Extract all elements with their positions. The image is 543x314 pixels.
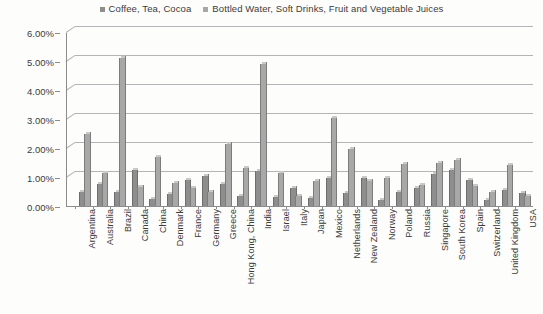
bar-top xyxy=(473,184,478,186)
y-axis-tick-label: 4.00% xyxy=(27,86,54,97)
bar-group xyxy=(216,27,234,206)
x-axis-tick-label: Spain xyxy=(475,209,485,233)
y-axis-tick xyxy=(55,62,60,63)
bar xyxy=(507,165,512,206)
x-axis-tick-label: Norway xyxy=(387,209,397,240)
x-axis-labels: ArgentinaAustraliaBrazilCanadaChinaDenma… xyxy=(66,209,533,313)
x-axis-tick-label: Japan xyxy=(316,209,326,234)
bar-group xyxy=(392,27,410,206)
bar xyxy=(255,171,260,206)
y-axis-tick xyxy=(55,33,60,34)
bar-face xyxy=(313,181,320,206)
bar-group xyxy=(374,27,392,206)
bar-group xyxy=(163,27,181,206)
bar-group xyxy=(269,27,287,206)
bar-face xyxy=(190,188,197,206)
bar-face xyxy=(419,185,426,206)
bar-top xyxy=(508,163,513,165)
bar-group xyxy=(304,27,322,206)
y-axis-tick-label: 5.00% xyxy=(27,57,54,68)
bar-group xyxy=(463,27,481,206)
bar-group xyxy=(339,27,357,206)
bar xyxy=(331,118,336,206)
bar-top xyxy=(209,190,214,192)
bar xyxy=(396,192,401,207)
bar-face xyxy=(489,192,496,207)
y-axis-tick xyxy=(55,120,60,121)
bar-face xyxy=(207,192,214,207)
bar xyxy=(361,178,366,206)
y-axis-tick-label: 1.00% xyxy=(27,173,54,184)
bar-face xyxy=(225,144,232,206)
bar-face xyxy=(436,163,443,207)
y-axis-tick-label: 0.00% xyxy=(27,202,54,213)
bar xyxy=(79,192,84,207)
bar-group xyxy=(480,27,498,206)
bar xyxy=(454,160,459,206)
bar xyxy=(366,181,371,206)
bar-top xyxy=(438,161,443,163)
x-axis-tick-label: Israel xyxy=(281,209,291,232)
x-axis-tick-label: Canada xyxy=(140,209,150,241)
bar-group xyxy=(357,27,375,206)
y-axis-tick xyxy=(55,91,60,92)
bar-face xyxy=(119,58,126,206)
x-axis-tick-label: China xyxy=(158,209,168,233)
bar-face xyxy=(507,165,514,206)
bar xyxy=(449,170,454,206)
legend-label-series-1: Coffee, Tea, Cocoa xyxy=(109,3,192,14)
legend-item-bottled-water-soft-drinks: Bottled Water, Soft Drinks, Fruit and Ve… xyxy=(203,3,443,14)
bar-group xyxy=(286,27,304,206)
bar-chart: Coffee, Tea, Cocoa Bottled Water, Soft D… xyxy=(0,0,543,314)
x-axis-tick-label: Australia xyxy=(105,209,115,245)
bar xyxy=(243,168,248,206)
bar-top xyxy=(315,179,320,181)
bar xyxy=(384,178,389,206)
y-axis-tick-label: 2.00% xyxy=(27,144,54,155)
bar-top xyxy=(133,168,138,170)
x-axis-tick-label: India xyxy=(263,209,273,229)
bar xyxy=(431,174,436,206)
legend-item-coffee-tea-cocoa: Coffee, Tea, Cocoa xyxy=(100,3,192,14)
bar-top xyxy=(468,178,473,180)
bar-top xyxy=(491,190,496,192)
x-axis-tick-label: Russia xyxy=(422,209,432,237)
bar xyxy=(149,199,154,206)
bar xyxy=(436,163,441,207)
bar-face xyxy=(260,64,267,206)
bar-top xyxy=(297,194,302,196)
x-axis-tick-label: Argentina xyxy=(87,209,97,248)
bar-top xyxy=(86,132,91,134)
y-axis: 0.00%1.00%2.00%3.00%4.00%5.00%6.00% xyxy=(0,27,60,213)
bar-face xyxy=(331,118,338,206)
x-axis-tick-label: Germany xyxy=(211,209,221,247)
bar xyxy=(190,188,195,206)
bar-top xyxy=(191,186,196,188)
bar xyxy=(472,186,477,206)
y-axis-tick-label: 3.00% xyxy=(27,115,54,126)
x-axis-tick-label: Hong Kong, China xyxy=(246,209,256,284)
bar xyxy=(119,58,124,206)
bar xyxy=(489,192,494,207)
bar xyxy=(185,180,190,206)
bar-top xyxy=(350,147,355,149)
bar-top xyxy=(138,185,143,187)
bar xyxy=(137,187,142,206)
bar-face xyxy=(366,181,373,206)
y-axis-tick xyxy=(55,149,60,150)
gridline-riser xyxy=(66,171,76,178)
x-axis-tick-label: USA xyxy=(528,209,538,228)
bar-top xyxy=(403,162,408,164)
bar-face xyxy=(384,178,391,206)
bar-face xyxy=(472,186,479,206)
bar-top xyxy=(521,191,526,193)
bar xyxy=(167,194,172,206)
bar-group xyxy=(251,27,269,206)
bar xyxy=(295,196,300,206)
bar-group xyxy=(498,27,516,206)
gridline-riser xyxy=(66,55,76,62)
x-axis-tick-label: Poland xyxy=(404,209,414,238)
bar-group xyxy=(515,27,533,206)
bar xyxy=(466,180,471,206)
bar-top xyxy=(385,176,390,178)
